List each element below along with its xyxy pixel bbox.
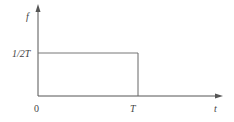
y-axis-arrow-icon bbox=[36, 4, 41, 12]
y-axis-label: f bbox=[26, 12, 29, 22]
origin-label: 0 bbox=[34, 104, 39, 114]
y-tick-label: 1/2T bbox=[12, 49, 30, 59]
x-tick-label: T bbox=[130, 104, 136, 114]
x-axis-label: t bbox=[214, 104, 217, 114]
x-axis-arrow-icon bbox=[215, 94, 223, 99]
